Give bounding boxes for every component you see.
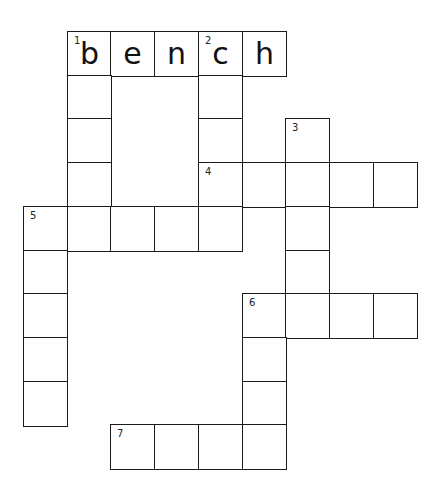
cell-letter xyxy=(111,427,154,469)
crossword-cell[interactable]: 1b xyxy=(67,31,112,77)
cell-letter xyxy=(68,165,111,207)
cell-letter xyxy=(24,296,67,338)
crossword-cell[interactable] xyxy=(198,75,243,121)
crossword-cell[interactable] xyxy=(154,206,199,252)
crossword-cell[interactable]: 6 xyxy=(242,293,287,339)
crossword-cell[interactable] xyxy=(23,293,68,339)
crossword-cell[interactable] xyxy=(285,162,330,208)
crossword-cell[interactable]: h xyxy=(242,31,287,77)
cell-letter xyxy=(24,253,67,295)
crossword-cell[interactable] xyxy=(154,424,199,470)
crossword-cell[interactable] xyxy=(329,162,374,208)
cell-letter xyxy=(243,384,286,426)
crossword-cell[interactable] xyxy=(110,206,155,252)
cell-letter xyxy=(374,165,417,207)
cell-letter xyxy=(68,78,111,120)
cell-letter xyxy=(199,165,242,207)
crossword-cell[interactable] xyxy=(242,337,287,383)
crossword-grid: 1ben2ch34567 xyxy=(0,0,446,504)
crossword-cell[interactable] xyxy=(23,337,68,383)
crossword-cell[interactable] xyxy=(242,424,287,470)
crossword-cell[interactable]: 5 xyxy=(23,206,68,252)
crossword-cell[interactable] xyxy=(242,381,287,427)
crossword-cell[interactable]: 3 xyxy=(285,118,330,164)
crossword-cell[interactable] xyxy=(373,293,418,339)
cell-letter xyxy=(243,340,286,382)
crossword-cell[interactable] xyxy=(67,206,112,252)
crossword-cell[interactable] xyxy=(67,118,112,164)
cell-letter: b xyxy=(68,34,111,76)
cell-letter xyxy=(330,165,373,207)
crossword-cell[interactable] xyxy=(285,250,330,296)
cell-letter xyxy=(24,340,67,382)
cell-letter xyxy=(24,384,67,426)
cell-letter: h xyxy=(243,34,286,76)
crossword-cell[interactable] xyxy=(198,424,243,470)
cell-letter xyxy=(286,296,329,338)
cell-letter xyxy=(111,209,154,251)
crossword-cell[interactable] xyxy=(373,162,418,208)
cell-letter xyxy=(199,78,242,120)
crossword-cell[interactable] xyxy=(329,293,374,339)
cell-letter: e xyxy=(111,34,154,76)
cell-letter xyxy=(199,427,242,469)
crossword-cell[interactable] xyxy=(242,162,287,208)
cell-letter: n xyxy=(155,34,198,76)
cell-letter xyxy=(286,209,329,251)
cell-letter xyxy=(155,209,198,251)
crossword-cell[interactable] xyxy=(198,206,243,252)
cell-letter xyxy=(286,165,329,207)
cell-letter xyxy=(24,209,67,251)
cell-letter xyxy=(243,296,286,338)
cell-letter: c xyxy=(199,34,242,76)
cell-letter xyxy=(243,165,286,207)
cell-letter xyxy=(199,209,242,251)
crossword-cell[interactable] xyxy=(285,206,330,252)
cell-letter xyxy=(68,121,111,163)
cell-letter xyxy=(155,427,198,469)
crossword-cell[interactable]: n xyxy=(154,31,199,77)
cell-letter xyxy=(330,296,373,338)
cell-letter xyxy=(68,209,111,251)
cell-letter xyxy=(286,121,329,163)
crossword-cell[interactable]: 7 xyxy=(110,424,155,470)
crossword-cell[interactable] xyxy=(198,118,243,164)
crossword-cell[interactable] xyxy=(23,250,68,296)
cell-letter xyxy=(286,253,329,295)
crossword-cell[interactable] xyxy=(67,75,112,121)
crossword-cell[interactable] xyxy=(23,381,68,427)
crossword-cell[interactable]: 2c xyxy=(198,31,243,77)
cell-letter xyxy=(199,121,242,163)
cell-letter xyxy=(243,427,286,469)
crossword-cell[interactable]: e xyxy=(110,31,155,77)
cell-letter xyxy=(374,296,417,338)
crossword-cell[interactable]: 4 xyxy=(198,162,243,208)
crossword-cell[interactable] xyxy=(67,162,112,208)
crossword-cell[interactable] xyxy=(285,293,330,339)
